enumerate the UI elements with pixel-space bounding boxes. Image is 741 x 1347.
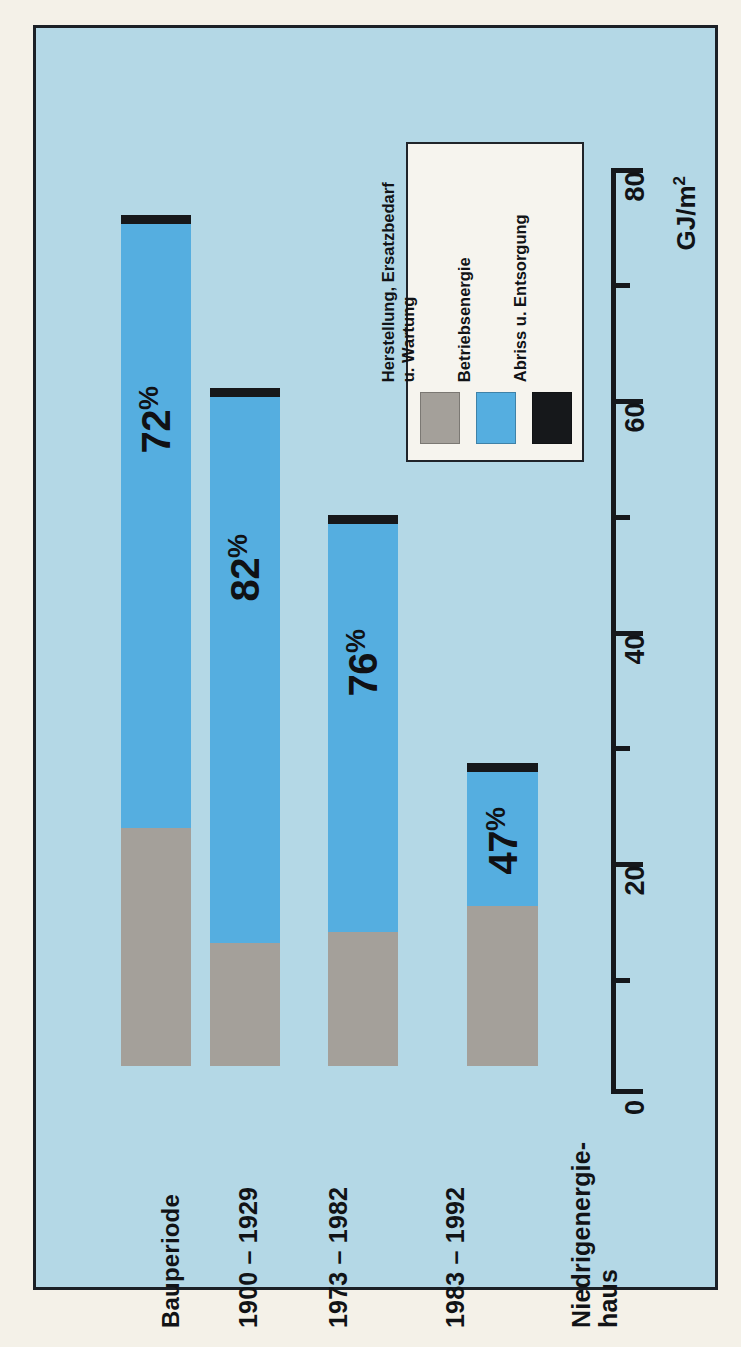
plot-area: 72% 82% 76% — [36, 28, 715, 1287]
value-axis: 80 60 40 20 0 — [611, 168, 612, 1094]
legend: Herstellung, Ersatzbedarf u. Wartung Bet… — [406, 142, 584, 462]
category-label-niedrigenergiehaus: Niedrigenergie- haus — [568, 1068, 622, 1328]
swatch-herstellung-icon — [420, 392, 460, 444]
axis-tick-label-60: 60 — [620, 402, 651, 432]
axis-tick-10 — [611, 978, 630, 983]
axis-unit-label: GJ/m2 — [670, 176, 702, 250]
axis-tick-50 — [611, 515, 630, 520]
legend-item-abriss[interactable]: Abriss u. Entsorgung — [526, 156, 582, 448]
axis-tick-0 — [611, 1089, 643, 1094]
axis-tick-label-0: 0 — [620, 1100, 651, 1115]
legend-label: Herstellung, Ersatzbedarf u. Wartung — [378, 146, 418, 382]
axis-tick-label-40: 40 — [620, 634, 651, 664]
bar-value-label: 82% — [223, 534, 268, 601]
bar-segment-herstellung — [121, 828, 191, 1066]
category-label-1983-1992: 1983 – 1992 — [442, 1068, 469, 1328]
axis-tick-label-20: 20 — [620, 865, 651, 895]
category-axis-title: Bauperiode — [158, 1068, 184, 1328]
bar-segment-abriss — [121, 215, 191, 224]
page-background: 72% 82% 76% — [0, 0, 741, 1347]
bar-segment-abriss — [467, 763, 538, 772]
bar-segment-abriss — [210, 388, 280, 397]
bar-segment-herstellung — [467, 906, 538, 1066]
bar-segment-betriebsenergie — [210, 397, 280, 943]
axis-tick-30 — [611, 746, 630, 751]
swatch-abriss-icon — [532, 392, 572, 444]
bar-1983-1992[interactable]: 76% — [328, 515, 398, 1066]
axis-unit-exponent: 2 — [670, 176, 689, 185]
axis-tick-label-80: 80 — [620, 171, 651, 201]
legend-label: Betriebsenergie — [454, 146, 474, 382]
bar-segment-herstellung — [328, 932, 398, 1066]
category-label-line2: haus — [594, 1269, 622, 1328]
bar-segment-abriss — [328, 515, 398, 524]
bar-segment-herstellung — [210, 943, 280, 1066]
category-label-1973-1982: 1973 – 1982 — [325, 1068, 352, 1328]
swatch-betriebsenergie-icon — [476, 392, 516, 444]
bar-1973-1982[interactable]: 82% — [210, 388, 280, 1066]
chart-panel: 72% 82% 76% — [33, 25, 718, 1290]
axis-tick-70 — [611, 283, 630, 288]
legend-label: Abriss u. Entsorgung — [510, 146, 530, 382]
category-label-1900-1929: 1900 – 1929 — [235, 1068, 262, 1328]
bar-value-label: 76% — [341, 629, 386, 696]
bar-1900-1929[interactable]: 72% — [121, 215, 191, 1066]
axis-unit-text: GJ/m — [671, 185, 701, 250]
category-label-line1: Niedrigenergie- — [567, 1142, 595, 1328]
bar-segment-betriebsenergie — [121, 224, 191, 828]
bar-value-label: 47% — [480, 807, 525, 874]
bar-value-label: 72% — [134, 386, 179, 453]
bar-segment-betriebsenergie — [328, 524, 398, 932]
bar-niedrigenergiehaus[interactable]: 47% — [467, 763, 538, 1066]
